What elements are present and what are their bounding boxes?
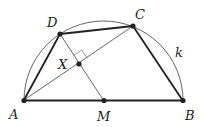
geometry-diagram: D C k X A M B [0, 0, 204, 127]
segment-AD [24, 34, 60, 100]
point-A [21, 98, 26, 103]
point-C [130, 23, 135, 28]
label-D: D [46, 15, 58, 30]
point-D [57, 31, 62, 36]
point-X [76, 61, 81, 66]
label-M: M [96, 109, 111, 124]
label-A: A [8, 107, 18, 122]
segment-DC [60, 26, 133, 34]
label-k: k [175, 45, 183, 60]
arc-k [24, 21, 183, 101]
point-M [101, 98, 106, 103]
label-X: X [57, 57, 68, 72]
label-B: B [184, 108, 195, 123]
segment-CB [133, 26, 183, 101]
point-B [180, 98, 185, 103]
label-C: C [135, 7, 145, 22]
